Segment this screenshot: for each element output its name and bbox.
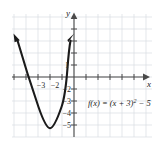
y-tick-label-neg3: −3 [62, 97, 71, 106]
x-tick-label-neg2: −2 [51, 81, 60, 90]
x-tick-label-neg3: −3 [37, 81, 46, 90]
y-tick-label-neg5: −5 [62, 121, 71, 130]
equation-suffix: − 5 [136, 98, 150, 108]
y-tick-label-neg4: −4 [62, 109, 71, 118]
grid-panel [12, 14, 152, 137]
x-axis-label: x [146, 79, 151, 89]
equation-prefix: f(x) = (x + 3) [88, 98, 134, 108]
y-tick-label-1: 1 [65, 61, 69, 70]
y-tick-label-neg2: −2 [62, 85, 71, 94]
coordinate-plane-svg: x y −3 −2 1 −2 −3 −4 −5 f(x) = (x + 3)2 … [0, 0, 156, 145]
y-axis-label: y [65, 8, 70, 18]
equation-annotation: f(x) = (x + 3)2 − 5 [88, 98, 151, 108]
parabola-graph-figure: x y −3 −2 1 −2 −3 −4 −5 f(x) = (x + 3)2 … [0, 0, 156, 145]
